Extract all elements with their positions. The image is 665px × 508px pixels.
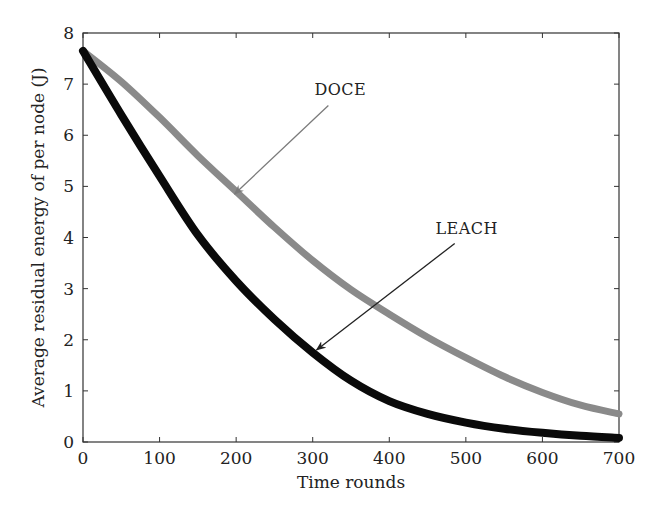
x-tick-labels: 0100200300400500600700	[78, 448, 636, 468]
annotations: DOCELEACH	[235, 80, 498, 350]
annotation-arrow-leach	[317, 244, 455, 350]
y-tick-labels: 012345678	[63, 23, 74, 452]
x-tick-label: 400	[373, 448, 405, 468]
annotation-label-leach: LEACH	[435, 219, 498, 238]
x-tick-label: 0	[78, 448, 89, 468]
series-lines	[83, 51, 619, 438]
y-axis-title: Average residual energy of per node (J)	[28, 67, 48, 408]
x-tick-label: 200	[220, 448, 252, 468]
y-tick-label: 8	[63, 23, 74, 43]
y-tick-label: 3	[63, 279, 74, 299]
annotation-label-doce: DOCE	[314, 80, 366, 99]
y-tick-label: 2	[63, 330, 74, 350]
y-tick-label: 6	[63, 125, 74, 145]
series-line-leach	[83, 51, 619, 438]
x-tick-label: 300	[296, 448, 328, 468]
y-tick-label: 5	[63, 176, 74, 196]
annotation-arrow-doce	[235, 105, 329, 194]
series-line-doce	[83, 51, 619, 414]
line-chart: 0100200300400500600700 012345678 DOCELEA…	[0, 0, 665, 508]
y-tick-label: 0	[63, 432, 74, 452]
y-tick-label: 1	[63, 381, 74, 401]
x-tick-label: 600	[526, 448, 558, 468]
x-tick-label: 100	[143, 448, 175, 468]
y-tick-label: 7	[63, 74, 74, 94]
x-axis-title: Time rounds	[297, 472, 405, 492]
y-tick-label: 4	[63, 228, 74, 248]
x-tick-label: 500	[450, 448, 482, 468]
x-tick-label: 700	[603, 448, 635, 468]
